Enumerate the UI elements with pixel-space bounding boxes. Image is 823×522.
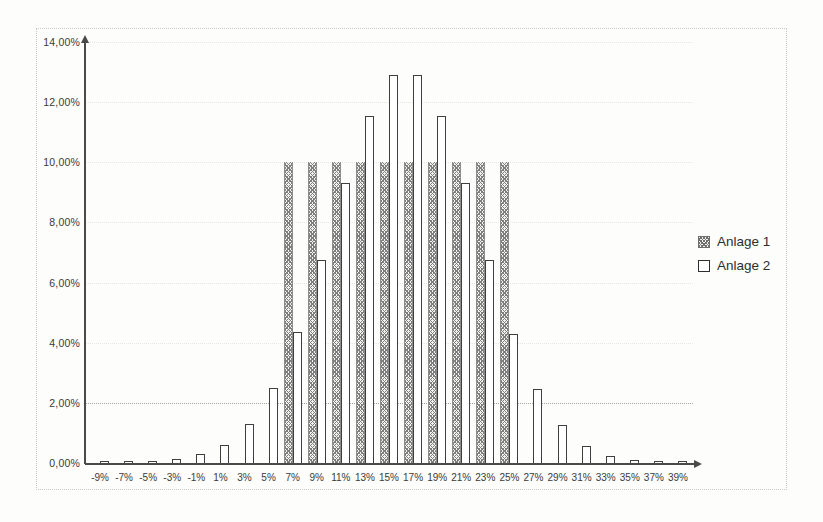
y-axis-arrow-icon [81, 35, 89, 43]
y-tick-label-6pct: 6,00% [8, 277, 80, 289]
y-tick-label-2pct: 2,00% [8, 397, 80, 409]
legend-item-anlage-2: Anlage 2 [698, 258, 770, 273]
bar-anlage-2-21pct [461, 183, 470, 463]
bar-anlage-2-29pct [558, 425, 567, 463]
bar-anlage-2-3pct [245, 424, 254, 463]
bar-anlage-1-25pct [500, 162, 509, 463]
bar-anlage-1-23pct [476, 162, 485, 463]
bar-anlage-1-7pct [284, 162, 293, 463]
bar-anlage-2-33pct [606, 456, 615, 463]
bar-anlage-2-13pct [365, 116, 374, 463]
legend: Anlage 1 Anlage 2 [698, 234, 770, 273]
legend-label-anlage-2: Anlage 2 [717, 258, 770, 273]
bar-anlage-2-9pct [317, 260, 326, 463]
bar-anlage-2-7pct [293, 332, 302, 463]
bar-anlage-1-21pct [452, 162, 461, 463]
bar-anlage-1-13pct [356, 162, 365, 463]
chart-figure: Anlage 1 Anlage 2 0,00%2,00%4,00%6,00%8,… [0, 0, 823, 522]
x-axis-arrow-icon [694, 460, 702, 468]
bar-anlage-1-11pct [332, 162, 341, 463]
legend-label-anlage-1: Anlage 1 [717, 234, 770, 249]
bar-anlage-1-17pct [404, 162, 413, 463]
bar-anlage-2-19pct [437, 116, 446, 463]
legend-swatch-outline-icon [698, 260, 710, 272]
x-axis-line [85, 463, 696, 465]
y-tick-label-12pct: 12,00% [8, 96, 80, 108]
bar-anlage-2-15pct [389, 75, 398, 463]
bar-anlage-2-5pct [269, 388, 278, 463]
legend-swatch-hatched-icon [698, 236, 710, 248]
bar-anlage-2-27pct [533, 389, 542, 463]
bar-anlage-1-9pct [308, 162, 317, 463]
y-tick-label-14pct: 14,00% [8, 36, 80, 48]
bar-anlage-2-1pct [220, 445, 229, 463]
legend-item-anlage-1: Anlage 1 [698, 234, 770, 249]
bar-anlage-1-19pct [428, 162, 437, 463]
y-tick-label-8pct: 8,00% [8, 216, 80, 228]
bar-anlage-2-1pct [196, 454, 205, 463]
x-tick-label-39pct: 39% [659, 472, 697, 483]
bar-anlage-2-11pct [341, 183, 350, 463]
bar-anlage-2-31pct [582, 446, 591, 463]
bar-anlage-2-23pct [485, 260, 494, 463]
bar-anlage-2-25pct [509, 334, 518, 463]
y-tick-label-0pct: 0,00% [8, 457, 80, 469]
bar-anlage-2-17pct [413, 75, 422, 463]
gridline-14pct [86, 42, 693, 43]
bar-anlage-1-15pct [380, 162, 389, 463]
y-tick-label-4pct: 4,00% [8, 337, 80, 349]
y-tick-label-10pct: 10,00% [8, 156, 80, 168]
y-axis-line [84, 42, 86, 464]
